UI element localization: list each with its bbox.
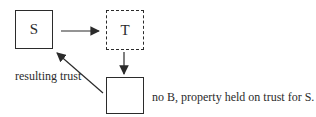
property-box xyxy=(106,77,144,114)
resulting-trust-diagram: S T resulting trust no B, property held … xyxy=(0,0,316,117)
trustee-box: T xyxy=(106,10,144,50)
settlor-box-label: S xyxy=(30,22,38,37)
trustee-box-label: T xyxy=(120,23,129,38)
resulting-trust-label: resulting trust xyxy=(15,70,81,83)
settlor-box: S xyxy=(15,10,53,49)
no-beneficiary-note: no B, property held on trust for S. xyxy=(152,91,314,104)
